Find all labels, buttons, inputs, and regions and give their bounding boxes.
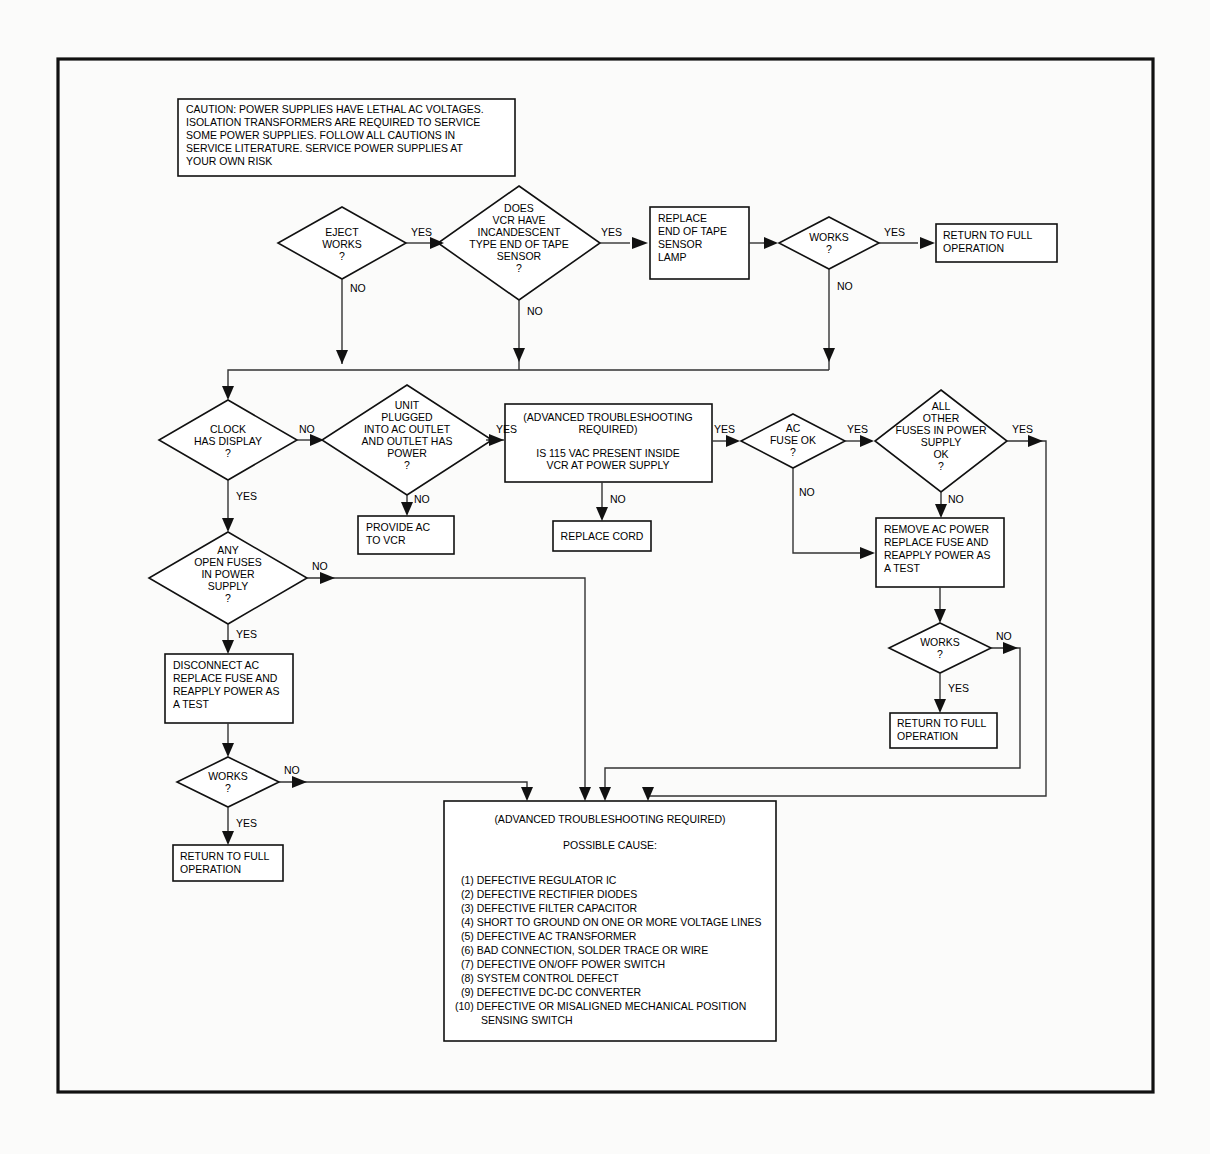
node-works-left[interactable]: WORKS ?: [177, 757, 279, 807]
node-incandescent-sensor-line-5: SENSOR: [497, 250, 542, 262]
node-provide-ac[interactable]: PROVIDE AC TO VCR: [358, 516, 454, 554]
node-any-open-fuses[interactable]: ANY OPEN FUSES IN POWER SUPPLY ?: [149, 532, 307, 624]
node-any-open-fuses-line-1: ANY: [217, 544, 239, 556]
edge-label-clock-yes: YES: [236, 490, 257, 502]
node-remove-ac-power-line-2: REPLACE FUSE AND: [884, 536, 989, 548]
node-eject-works[interactable]: EJECT WORKS ?: [278, 207, 406, 279]
edge-unit-no: NO: [401, 493, 430, 516]
node-works-right-line-1: WORKS: [920, 636, 960, 648]
edge-label-works-top-no: NO: [837, 280, 853, 292]
node-any-open-fuses-line-5: ?: [225, 592, 231, 604]
node-unit-plugged-line-1: UNIT: [395, 399, 420, 411]
edge-eject-no: NO: [336, 279, 366, 364]
node-ac-fuse-ok-line-1: AC: [786, 422, 801, 434]
edge-label-vac-no: NO: [610, 493, 626, 505]
node-disconnect-ac[interactable]: DISCONNECT AC REPLACE FUSE AND REAPPLY P…: [165, 654, 293, 723]
caution-line-4: SERVICE LITERATURE. SERVICE POWER SUPPLI…: [186, 142, 464, 154]
caution-line-1: CAUTION: POWER SUPPLIES HAVE LETHAL AC V…: [186, 103, 484, 115]
node-all-other-fuses-line-2: OTHER: [923, 412, 960, 424]
node-all-other-fuses-line-6: ?: [938, 460, 944, 472]
edge-label-sensor-no: NO: [527, 305, 543, 317]
node-replace-cord[interactable]: REPLACE CORD: [553, 521, 651, 551]
node-works-left-line-2: ?: [225, 782, 231, 794]
node-return-left-line-1: RETURN TO FULL: [180, 850, 270, 862]
node-clock-display-line-2: HAS DISPLAY: [194, 435, 262, 447]
node-return-top[interactable]: RETURN TO FULL OPERATION: [936, 224, 1057, 262]
edge-clock-no: NO: [297, 423, 324, 446]
cause-item-3: (3) DEFECTIVE FILTER CAPACITOR: [461, 902, 638, 914]
edge-works-top-no: NO: [823, 269, 853, 370]
node-return-left-line-2: OPERATION: [180, 863, 241, 875]
node-vac-present-line-5: VCR AT POWER SUPPLY: [546, 459, 669, 471]
cause-item-2: (2) DEFECTIVE RECTIFIER DIODES: [461, 888, 637, 900]
edge-clock-yes: YES: [222, 480, 257, 532]
node-works-right-line-2: ?: [937, 648, 943, 660]
node-any-open-fuses-line-3: IN POWER: [201, 568, 255, 580]
node-return-top-line-1: RETURN TO FULL: [943, 229, 1033, 241]
node-unit-plugged-line-2: PLUGGED: [381, 411, 433, 423]
node-incandescent-sensor[interactable]: DOES VCR HAVE INCANDESCENT TYPE END OF T…: [438, 186, 600, 300]
node-all-other-fuses-line-5: OK: [933, 448, 948, 460]
flowchart-canvas: CAUTION: POWER SUPPLIES HAVE LETHAL AC V…: [0, 0, 1210, 1154]
edge-sensor-no: NO: [513, 300, 543, 370]
node-any-open-fuses-line-2: OPEN FUSES: [194, 556, 262, 568]
node-replace-lamp-line-3: SENSOR: [658, 238, 703, 250]
node-return-top-line-2: OPERATION: [943, 242, 1004, 254]
edge-label-vac-yes: YES: [714, 423, 735, 435]
edge-label-any-open-no: NO: [312, 560, 328, 572]
edge-label-unit-no: NO: [414, 493, 430, 505]
node-ac-fuse-ok[interactable]: AC FUSE OK ?: [741, 414, 845, 468]
node-works-left-line-1: WORKS: [208, 770, 248, 782]
edge-label-works-right-yes: YES: [948, 682, 969, 694]
edge-label-sensor-yes: YES: [601, 226, 622, 238]
node-unit-plugged-line-5: POWER: [387, 447, 427, 459]
edge-label-works-left-no: NO: [284, 764, 300, 776]
edge-any-open-no: NO: [307, 560, 591, 801]
node-provide-ac-line-1: PROVIDE AC: [366, 521, 431, 533]
node-remove-ac-power-line-1: REMOVE AC POWER: [884, 523, 989, 535]
node-vac-present-line-4: IS 115 VAC PRESENT INSIDE: [536, 447, 680, 459]
edge-vac-no: NO: [596, 482, 626, 521]
node-unit-plugged[interactable]: UNIT PLUGGED INTO AC OUTLET AND OUTLET H…: [322, 385, 492, 495]
node-remove-ac-power[interactable]: REMOVE AC POWER REPLACE FUSE AND REAPPLY…: [876, 518, 1004, 587]
node-all-other-fuses[interactable]: ALL OTHER FUSES IN POWER SUPPLY OK ?: [875, 390, 1007, 492]
node-works-top[interactable]: WORKS ?: [779, 217, 879, 269]
node-return-left[interactable]: RETURN TO FULL OPERATION: [173, 845, 283, 881]
node-clock-display[interactable]: CLOCK HAS DISPLAY ?: [159, 400, 297, 480]
edge-label-ac-fuse-no: NO: [799, 486, 815, 498]
cause-item-7: (7) DEFECTIVE ON/OFF POWER SWITCH: [461, 958, 665, 970]
edge-disconnect-to-works: [222, 723, 234, 757]
cause-item-1: (1) DEFECTIVE REGULATOR IC: [461, 874, 617, 886]
cause-item-5: (5) DEFECTIVE AC TRANSFORMER: [461, 930, 637, 942]
edge-eject-yes: YES: [406, 226, 444, 249]
node-ac-fuse-ok-line-2: FUSE OK: [770, 434, 816, 446]
node-remove-ac-power-line-4: A TEST: [884, 562, 921, 574]
edge-label-clock-no: NO: [299, 423, 315, 435]
node-possible-cause[interactable]: (ADVANCED TROUBLESHOOTING REQUIRED) POSS…: [444, 801, 776, 1041]
node-clock-display-line-1: CLOCK: [210, 423, 246, 435]
node-all-other-fuses-line-1: ALL: [932, 400, 951, 412]
edge-label-works-right-no: NO: [996, 630, 1012, 642]
node-replace-lamp[interactable]: REPLACE END OF TAPE SENSOR LAMP: [650, 207, 749, 279]
node-disconnect-ac-line-4: A TEST: [173, 698, 210, 710]
edge-works-left-yes: YES: [222, 807, 257, 845]
node-disconnect-ac-line-3: REAPPLY POWER AS: [173, 685, 279, 697]
node-incandescent-sensor-line-1: DOES: [504, 202, 534, 214]
edge-works-top-yes: YES: [879, 226, 935, 249]
caution-line-3: SOME POWER SUPPLIES. FOLLOW ALL CAUTIONS…: [186, 129, 455, 141]
edge-sensor-yes: YES: [600, 226, 648, 249]
node-return-right[interactable]: RETURN TO FULL OPERATION: [890, 713, 997, 748]
node-works-top-line-2: ?: [826, 243, 832, 255]
node-works-top-line-1: WORKS: [809, 231, 849, 243]
cause-item-10: (10) DEFECTIVE OR MISALIGNED MECHANICAL …: [455, 1000, 746, 1012]
edge-label-works-left-yes: YES: [236, 817, 257, 829]
node-vac-present[interactable]: (ADVANCED TROUBLESHOOTING REQUIRED) IS 1…: [505, 404, 712, 482]
edge-lamp-to-works: [749, 237, 778, 249]
edge-label-eject-no: NO: [350, 282, 366, 294]
node-works-right[interactable]: WORKS ?: [889, 623, 991, 673]
node-incandescent-sensor-line-2: VCR HAVE: [493, 214, 546, 226]
edge-works-left-no: NO: [279, 764, 533, 801]
node-vac-present-line-1: (ADVANCED TROUBLESHOOTING: [523, 411, 692, 423]
cause-item-6: (6) BAD CONNECTION, SOLDER TRACE OR WIRE: [461, 944, 708, 956]
node-all-other-fuses-line-4: SUPPLY: [921, 436, 962, 448]
